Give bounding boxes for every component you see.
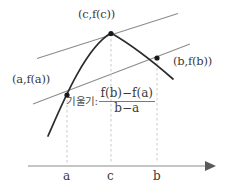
slope-label-text: 기울기:: [66, 93, 99, 108]
label-point-a: (a,f(a)): [12, 74, 50, 86]
axis-tick-label-c: c: [107, 170, 114, 182]
slope-annotation: 기울기: f(b)−f(a) b−a: [66, 87, 155, 114]
axis-tick-label-b: b: [153, 170, 161, 182]
label-point-b: (b,f(b)): [173, 56, 212, 68]
axis-tick-label-a: a: [63, 170, 70, 182]
x-axis-arrow-icon: [205, 161, 216, 171]
label-point-c: (c,f(c)): [78, 9, 115, 21]
fraction-numerator: f(b)−f(a): [99, 87, 156, 100]
fraction-denominator: b−a: [112, 102, 141, 115]
slope-fraction: f(b)−f(a) b−a: [99, 87, 156, 114]
point-marker-b: [154, 55, 159, 60]
point-marker-c: [108, 31, 113, 36]
mvt-figure: (c,f(c)) (b,f(b)) (a,f(a)) 기울기: f(b)−f(a…: [0, 0, 236, 192]
